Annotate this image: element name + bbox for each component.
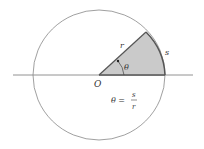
radius-label: r: [120, 41, 125, 50]
formula-lhs: θ =: [111, 96, 125, 105]
arc-label: s: [165, 48, 169, 57]
formula-denominator: r: [132, 103, 136, 111]
angle-arrow-icon: [117, 60, 119, 62]
origin-label: O: [94, 79, 102, 89]
radian-diagram: O r s θ θ = s r: [0, 0, 204, 149]
formula-numerator: s: [132, 91, 136, 99]
angle-label: θ: [124, 63, 129, 72]
shaded-sector: [99, 32, 165, 75]
diagram-canvas: O r s θ θ = s r: [0, 0, 204, 149]
